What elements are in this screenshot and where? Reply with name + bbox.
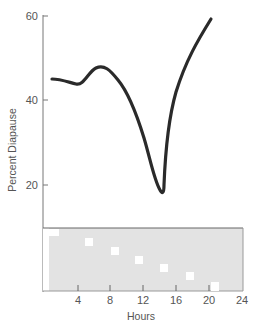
x-tick-24: 24 <box>236 294 248 306</box>
left-white-margin <box>43 228 49 291</box>
light-pulse-2 <box>85 238 93 246</box>
light-pulse-6 <box>186 272 194 280</box>
y-tick-40: 40 <box>26 94 38 106</box>
y-ticks <box>43 16 48 185</box>
x-tick-8: 8 <box>107 294 113 306</box>
x-tick-20: 20 <box>203 294 215 306</box>
light-pulse-5 <box>160 264 168 272</box>
light-dark-panel <box>43 228 243 291</box>
y-tick-60: 60 <box>26 10 38 22</box>
light-pulse-4 <box>135 256 143 264</box>
x-tick-16: 16 <box>170 294 182 306</box>
x-tick-4: 4 <box>75 294 81 306</box>
y-axis-title: Percent Diapause <box>6 108 18 192</box>
x-tick-12: 12 <box>137 294 149 306</box>
light-pulse-7 <box>211 282 219 291</box>
diapause-curve <box>52 19 211 193</box>
light-pulse-1 <box>48 229 59 236</box>
y-tick-20: 20 <box>26 179 38 191</box>
x-axis-title: Hours <box>127 310 155 322</box>
chart-canvas: 60 40 20 Percent Diapause 4 8 12 16 20 2… <box>0 0 259 329</box>
light-pulse-3 <box>111 247 119 255</box>
